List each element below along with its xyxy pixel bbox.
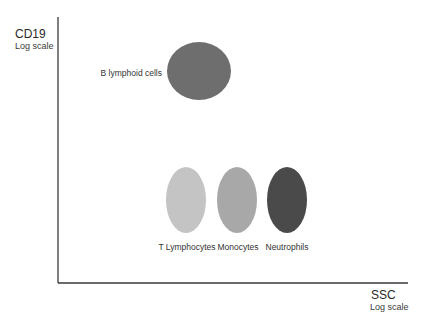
neutrophils-cluster	[267, 167, 307, 233]
y-axis-sublabel: Log scale	[15, 41, 54, 51]
x-axis-sublabel: Log scale	[370, 302, 409, 312]
monocytes-label: Monocytes	[217, 242, 258, 252]
t-lymphocytes-cluster	[166, 167, 206, 233]
monocytes-cluster	[217, 167, 257, 233]
b-lymphoid-cells-label: B lymphoid cells	[101, 68, 162, 78]
neutrophils-label: Neutrophils	[266, 242, 309, 252]
b-lymphoid-cells-cluster	[167, 42, 231, 100]
flow-cytometry-diagram: CD19 Log scale SSC Log scale B lymphoid …	[0, 0, 431, 318]
t-lymphocytes-label: T Lymphocytes	[158, 242, 215, 252]
x-axis-label: SSC	[371, 288, 396, 302]
y-axis-label: CD19	[15, 27, 46, 41]
